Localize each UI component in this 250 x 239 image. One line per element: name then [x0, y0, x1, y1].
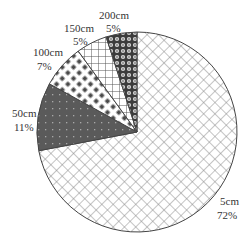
label-name: 200cm: [99, 9, 129, 21]
label-percent: 72%: [217, 209, 237, 221]
label-percent: 11%: [14, 121, 34, 133]
label-name: 150cm: [64, 22, 94, 34]
label-name: 100cm: [33, 46, 63, 58]
label-percent: 7%: [37, 60, 52, 72]
label-percent: 5%: [106, 22, 121, 34]
slice-label-200cm: 200cm 5%: [99, 9, 129, 34]
slice-label-50cm: 50cm 11%: [12, 107, 37, 133]
slice-label-5cm: 5cm 72%: [217, 195, 239, 221]
pie-slices: [37, 32, 237, 232]
pie-chart: 5cm 72% 50cm 11% 100cm 7% 150cm 5% 200cm…: [0, 0, 250, 239]
label-name: 50cm: [12, 107, 37, 119]
label-percent: 5%: [73, 35, 88, 47]
label-name: 5cm: [220, 195, 239, 207]
slice-label-100cm: 100cm 7%: [33, 46, 63, 72]
